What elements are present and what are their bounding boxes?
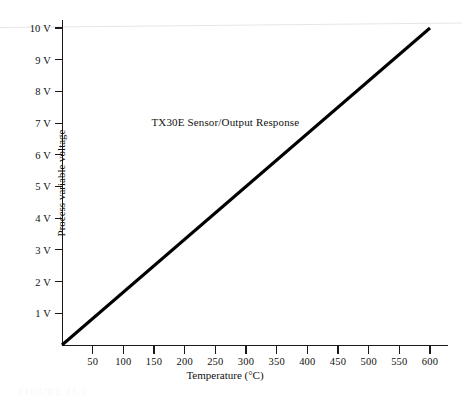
x-tick-100: 100 [123, 346, 124, 354]
y-tick-label-9: 9 V [35, 54, 51, 65]
x-tick-label-500: 500 [360, 356, 376, 367]
x-tick-400: 400 [307, 346, 308, 354]
y-tick-2: 2 V [55, 281, 63, 282]
plot-area [0, 0, 462, 399]
x-tick-label-450: 450 [330, 356, 346, 367]
x-tick-600: 600 [429, 346, 430, 354]
x-axis-title: Temperature (°C) [0, 369, 462, 381]
x-tick-label-350: 350 [268, 356, 284, 367]
x-tick-550: 550 [399, 346, 400, 354]
y-tick-7: 7 V [55, 123, 63, 124]
x-tick-450: 450 [337, 346, 338, 354]
x-tick-label-550: 550 [391, 356, 407, 367]
y-axis-title: Process variable voltage [55, 130, 67, 237]
x-tick-50: 50 [92, 346, 93, 354]
x-tick-label-50: 50 [87, 356, 98, 367]
figure-root: 1 V2 V3 V4 V5 V6 V7 V8 V9 V10 V 50100150… [0, 0, 462, 399]
x-tick-250: 250 [215, 346, 216, 354]
x-axis-title-text: Temperature (°C) [186, 369, 263, 381]
y-tick-3: 3 V [55, 249, 63, 250]
x-tick-label-200: 200 [176, 356, 192, 367]
x-tick-200: 200 [184, 346, 185, 354]
x-tick-label-150: 150 [146, 356, 162, 367]
plot-annotation: TX30E Sensor/Output Response [151, 116, 299, 128]
x-tick-label-300: 300 [238, 356, 254, 367]
y-tick-label-3: 3 V [35, 244, 51, 255]
y-tick-label-5: 5 V [35, 181, 51, 192]
x-tick-150: 150 [153, 346, 154, 354]
x-tick-500: 500 [368, 346, 369, 354]
data-line-tx30e [62, 28, 430, 345]
y-tick-1: 1 V [55, 313, 63, 314]
y-tick-label-1: 1 V [35, 308, 51, 319]
y-tick-label-6: 6 V [35, 149, 51, 160]
x-tick-label-400: 400 [299, 356, 315, 367]
y-tick-label-10: 10 V [30, 22, 51, 33]
figure-caption-partial: FIGURE 11-2 [18, 385, 88, 397]
y-tick-label-2: 2 V [35, 276, 51, 287]
x-tick-300: 300 [245, 346, 246, 354]
scan-artifact-line [0, 23, 462, 28]
x-tick-label-600: 600 [422, 356, 438, 367]
x-tick-label-250: 250 [207, 356, 223, 367]
y-tick-8: 8 V [55, 91, 63, 92]
x-tick-label-100: 100 [115, 356, 131, 367]
y-tick-9: 9 V [55, 59, 63, 60]
x-tick-350: 350 [276, 346, 277, 354]
y-tick-10: 10 V [55, 27, 63, 28]
y-tick-label-8: 8 V [35, 86, 51, 97]
y-tick-label-7: 7 V [35, 118, 51, 129]
y-tick-label-4: 4 V [35, 213, 51, 224]
x-axis-line [62, 345, 448, 346]
